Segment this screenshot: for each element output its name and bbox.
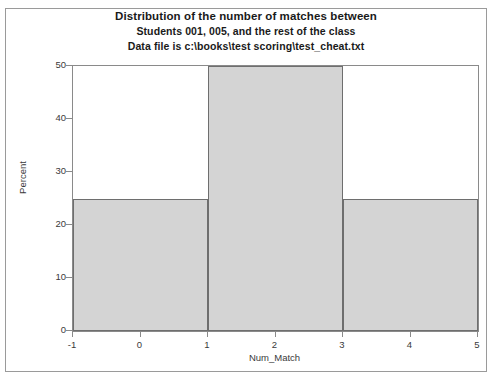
histogram-bar: [73, 199, 208, 332]
chart-datafile-line: Data file is c:\books\test scoring\test_…: [5, 39, 487, 54]
x-axis-tick-mark: [207, 331, 208, 337]
y-axis-label: Percent: [17, 148, 28, 208]
x-axis-tick-label: 1: [192, 339, 222, 350]
histogram-bar: [343, 199, 478, 332]
x-axis-tick-mark: [275, 331, 276, 337]
y-axis-tick-mark: [66, 118, 72, 119]
y-axis-tick-mark: [66, 65, 72, 66]
x-axis-tick-label: -1: [57, 339, 87, 350]
x-axis-tick-mark: [477, 331, 478, 337]
x-axis-tick-mark: [72, 331, 73, 337]
y-axis-tick-mark: [66, 277, 72, 278]
y-axis-tick-label: 50: [26, 60, 66, 70]
y-axis-tick-label: 20: [26, 219, 66, 229]
chart-title-block: Distribution of the number of matches be…: [5, 9, 487, 54]
x-axis-tick-label: 4: [395, 339, 425, 350]
x-axis-tick-label: 2: [260, 339, 290, 350]
bars-container: [73, 66, 478, 331]
y-axis-tick-mark: [66, 171, 72, 172]
chart-title: Distribution of the number of matches be…: [5, 9, 487, 24]
histogram-figure: Distribution of the number of matches be…: [0, 0, 493, 383]
x-axis-label: Num_Match: [72, 352, 477, 363]
y-axis-tick-label: 0: [26, 325, 66, 335]
histogram-bar: [208, 66, 343, 331]
x-axis-tick-mark: [342, 331, 343, 337]
chart-subtitle: Students 001, 005, and the rest of the c…: [5, 24, 487, 39]
y-axis-tick-label: 10: [26, 272, 66, 282]
x-axis-tick-label: 0: [125, 339, 155, 350]
x-axis-tick-mark: [140, 331, 141, 337]
y-axis-tick-label: 30: [26, 166, 66, 176]
plot-area: [72, 65, 479, 332]
x-axis-tick-label: 3: [327, 339, 357, 350]
x-axis-tick-label: 5: [462, 339, 492, 350]
x-axis-tick-mark: [410, 331, 411, 337]
y-axis-tick-label: 40: [26, 113, 66, 123]
y-axis-tick-mark: [66, 224, 72, 225]
